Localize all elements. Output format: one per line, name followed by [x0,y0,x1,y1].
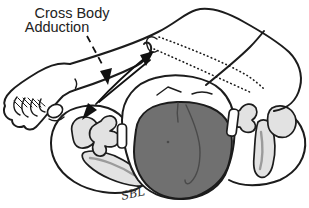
leader-dashed-line [87,36,102,64]
cross-body-adduction-diagram: Cross Body Adduction SBL [0,0,309,208]
right-humeral-head-bone [268,106,296,138]
wrist-crease-2 [75,79,77,89]
right-shoulder-girdle [229,104,305,185]
label-leader-arrow [87,36,112,85]
label-line2: Adduction [25,19,90,35]
hair-dot [167,141,170,144]
attribution-text: SBL [120,184,146,203]
hair-top-line [177,103,178,122]
hand [4,63,75,129]
motion-arrowhead-upper [140,51,154,66]
deltoid-line [206,31,264,85]
hand-outline [4,63,75,129]
hair [134,102,232,199]
diagram-canvas: Cross Body Adduction SBL [0,0,309,208]
left-ear [118,124,127,148]
